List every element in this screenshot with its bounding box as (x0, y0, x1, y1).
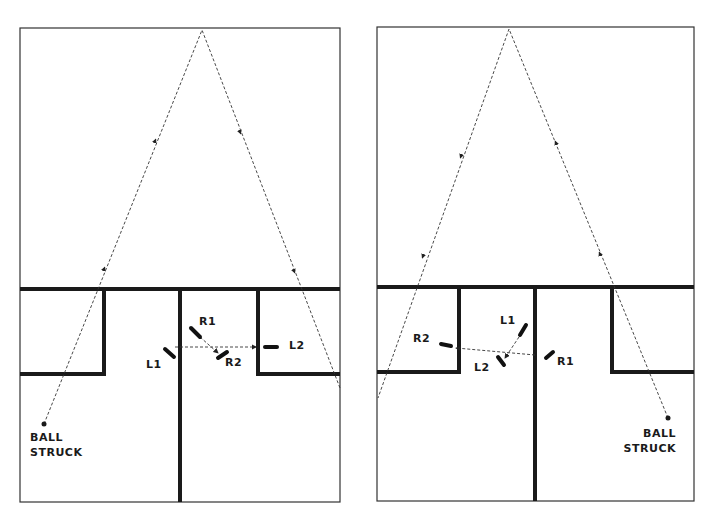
player-label-l1: L1 (146, 359, 162, 370)
player-label-r1: R1 (199, 316, 216, 327)
right-service-box (258, 289, 340, 374)
diagram-canvas (0, 0, 727, 523)
player-movement-line (200, 337, 218, 353)
ball-icon (42, 422, 47, 427)
player-r1-icon (191, 328, 200, 337)
player-r2-icon (441, 344, 451, 346)
player-label-r1: R1 (557, 356, 574, 367)
direction-arrow-icon (460, 154, 461, 158)
left-service-box (20, 289, 104, 374)
player-movement-line (456, 348, 535, 355)
ball-struck-label-line1: BALL (643, 428, 676, 439)
ball-icon (666, 416, 671, 421)
direction-arrow-icon (422, 254, 423, 258)
player-label-l1: L1 (500, 315, 516, 326)
left-panel (20, 28, 340, 502)
player-l1-icon (520, 325, 526, 335)
left-service-box (377, 287, 459, 372)
player-r1-icon (546, 352, 553, 358)
ball-path (44, 30, 340, 424)
player-l1-icon (165, 349, 174, 357)
right-service-box (612, 287, 694, 372)
ball-struck-label-line1: BALL (30, 432, 63, 443)
ball-path (378, 29, 668, 418)
player-label-l2: L2 (474, 362, 490, 373)
direction-arrow-icon (103, 267, 104, 271)
player-movement-line (505, 337, 519, 358)
player-label-r2: R2 (225, 357, 242, 368)
player-label-l2: L2 (289, 340, 305, 351)
ball-struck-label-line2: STRUCK (624, 443, 676, 454)
ball-struck-label-line2: STRUCK (30, 447, 82, 458)
player-label-r2: R2 (413, 333, 430, 344)
player-l2-icon (498, 357, 504, 365)
direction-arrow-icon (154, 139, 155, 143)
